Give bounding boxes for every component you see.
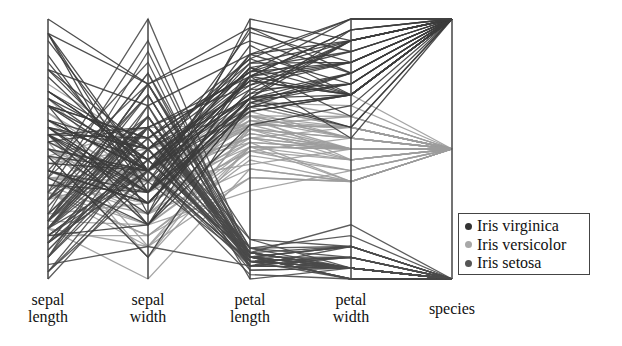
axis-label-line: length	[210, 308, 290, 325]
legend-item-versicolor: Iris versicolor	[465, 236, 589, 255]
axis-label-line: petal	[210, 291, 290, 308]
axis-label-line: species	[412, 300, 492, 317]
legend-label: Iris versicolor	[477, 236, 566, 254]
axis-label-petal-length: petal length	[210, 291, 290, 325]
axis-label-line: sepal	[108, 291, 188, 308]
axis-label-petal-width: petal width	[311, 291, 391, 325]
legend: Iris virginica Iris versicolor Iris seto…	[458, 213, 590, 275]
legend-label: Iris virginica	[477, 217, 559, 235]
legend-marker-icon	[465, 223, 472, 230]
legend-label: Iris setosa	[477, 254, 541, 272]
axis-label-line: width	[311, 308, 391, 325]
axis-label-line: petal	[311, 291, 391, 308]
legend-item-setosa: Iris setosa	[465, 254, 589, 273]
legend-marker-icon	[465, 260, 472, 267]
axis-label-species: species	[412, 300, 492, 317]
axis-label-sepal-width: sepal width	[108, 291, 188, 325]
axis-label-line: width	[108, 308, 188, 325]
legend-marker-icon	[465, 241, 472, 248]
legend-item-virginica: Iris virginica	[465, 217, 589, 236]
axis-label-sepal-length: sepal length	[8, 291, 88, 325]
axis-label-line: sepal	[8, 291, 88, 308]
axis-label-line: length	[8, 308, 88, 325]
